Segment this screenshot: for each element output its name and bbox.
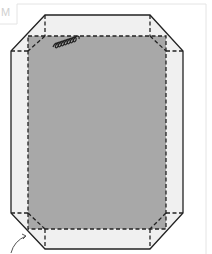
curved-arrow-icon	[11, 234, 26, 253]
center-panel	[28, 36, 166, 229]
folding-template-diagram	[0, 0, 212, 254]
